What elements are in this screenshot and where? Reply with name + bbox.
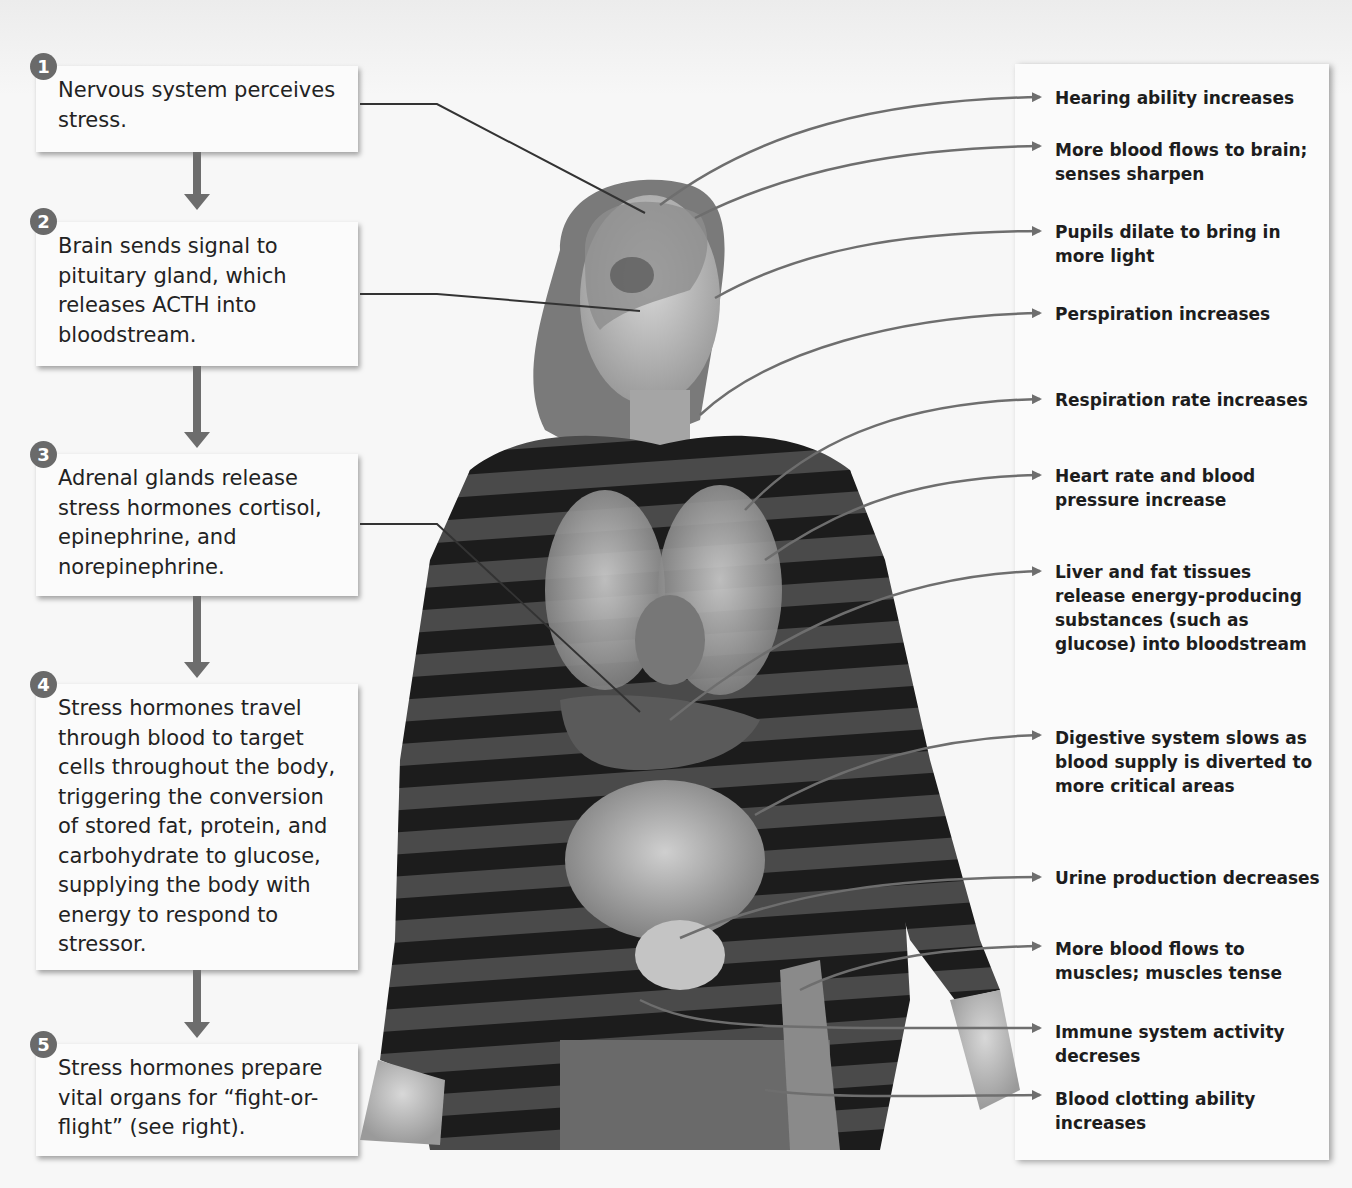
step-2-badge: 2 [30,208,57,235]
step-5-badge: 5 [30,1031,57,1058]
effect-pupils: Pupils dilate to bring in more light [1055,220,1320,268]
effect-heart-rate: Heart rate and blood pressure increase [1055,464,1320,512]
heart-icon [635,595,705,685]
effect-clotting: Blood clotting ability increases [1055,1087,1320,1135]
effect-urine: Urine production decreases [1055,866,1320,890]
step-1-badge: 1 [30,53,57,80]
intestines-icon [565,780,765,940]
effect-hearing: Hearing ability increases [1055,86,1320,110]
effect-immune: Immune system activity decreses [1055,1020,1320,1068]
step-3-badge: 3 [30,441,57,468]
effect-liver-fat: Liver and fat tissues release energy-pro… [1055,560,1320,656]
effect-respiration: Respiration rate increases [1055,388,1320,412]
effect-digestive: Digestive system slows as blood supply i… [1055,726,1320,798]
effect-muscles: More blood flows to muscles; muscles ten… [1055,937,1320,985]
step-4-badge: 4 [30,671,57,698]
right-hand [950,990,1020,1110]
effect-perspiration: Perspiration increases [1055,302,1320,326]
bladder-icon [635,920,725,990]
effect-blood-to-brain: More blood flows to brain; senses sharpe… [1055,138,1320,186]
